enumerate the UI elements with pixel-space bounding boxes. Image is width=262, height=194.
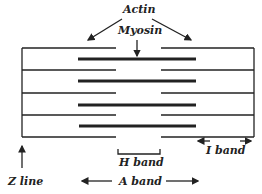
z-line-label: Z line	[8, 175, 43, 188]
actin-filaments	[22, 48, 254, 137]
actin-label: Actin	[123, 3, 156, 16]
h-band-label: H band	[119, 156, 164, 169]
myosin-label: Myosin	[118, 24, 162, 37]
a-band-label: A band	[119, 175, 162, 188]
i-band-label: I band	[206, 144, 245, 157]
